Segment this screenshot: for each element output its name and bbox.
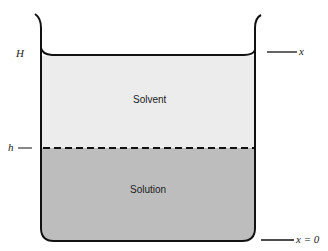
label-solvent: Solvent [133,94,166,105]
label-x-equals-0: x = 0 [296,233,319,245]
liquid-surface-line [41,48,255,55]
beaker-diagram [0,0,328,251]
label-h: h [8,141,14,153]
label-solution: Solution [130,184,166,195]
label-x: x [299,45,304,57]
label-H: H [16,47,24,59]
